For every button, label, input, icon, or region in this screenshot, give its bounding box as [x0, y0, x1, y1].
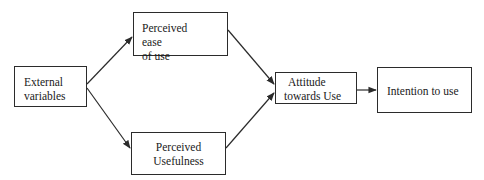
node-perceived-usefulness: Perceived Usefulness — [131, 132, 226, 175]
node-intention-to-use: Intention to use — [377, 67, 472, 113]
edge-peou-to-att — [228, 30, 274, 84]
node-label-line: towards Use — [284, 89, 356, 103]
node-label-line: Perceived ease — [142, 21, 227, 49]
node-label-line: of use — [142, 49, 227, 63]
node-perceived-ease-of-use: Perceived ease of use — [133, 12, 228, 56]
node-label-line: variables — [24, 89, 86, 103]
edge-ext-to-pu — [87, 88, 130, 148]
node-attitude-towards-use: Attitude towards Use — [275, 72, 357, 104]
node-external-variables: External variables — [14, 66, 87, 107]
node-label-line: Usefulness — [132, 154, 225, 168]
node-label-line: Intention to use — [387, 84, 471, 98]
node-label-line: External — [24, 75, 86, 89]
edge-pu-to-att — [226, 93, 274, 148]
node-label-line: Attitude — [284, 75, 356, 89]
node-label-line: Perceived — [132, 140, 225, 154]
edge-ext-to-peou — [87, 37, 132, 84]
